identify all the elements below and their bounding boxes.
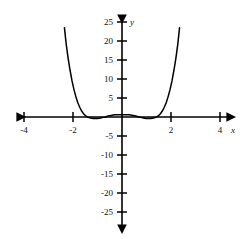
y-tick-label-neg5: -5 — [106, 131, 114, 141]
y-tick-label-pos25: 25 — [104, 17, 114, 27]
y-tick-label-pos5: 5 — [109, 93, 114, 103]
y-tick-label-pos20: 20 — [104, 36, 114, 46]
x-tick-label-pos2: 2 — [169, 125, 174, 135]
y-tick-label-neg15: -15 — [101, 169, 113, 179]
y-tick-label-neg20: -20 — [101, 188, 113, 198]
x-tick-label-neg4: -4 — [20, 125, 28, 135]
x-tick-label-pos4: 4 — [218, 125, 223, 135]
y-axis-label: y — [129, 17, 134, 27]
graph-figure: -4 -2 2 4 25 20 15 10 5 -5 -10 -15 -20 -… — [0, 0, 244, 239]
y-tick-label-neg10: -10 — [101, 150, 113, 160]
y-tick-label-neg25: -25 — [101, 207, 113, 217]
x-tick-label-neg2: -2 — [69, 125, 77, 135]
y-tick-label-pos10: 10 — [104, 74, 114, 84]
x-axis-label: x — [230, 125, 235, 135]
coordinate-plane-plot: -4 -2 2 4 25 20 15 10 5 -5 -10 -15 -20 -… — [0, 0, 244, 239]
y-tick-label-pos15: 15 — [104, 55, 114, 65]
